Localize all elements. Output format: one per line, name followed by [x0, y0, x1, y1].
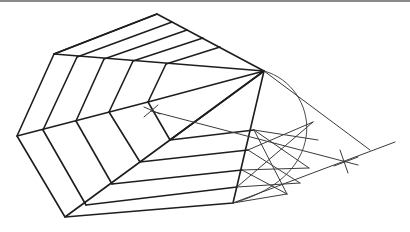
arc-chords — [233, 122, 318, 203]
left-hatching — [17, 57, 264, 136]
cross-mark-left — [144, 105, 160, 117]
top-hatching — [54, 14, 264, 71]
lower-left-hatching — [43, 71, 264, 217]
cross-mark-right — [334, 150, 358, 173]
outer-pentagon — [17, 14, 264, 217]
geometry-diagram — [0, 0, 410, 232]
bottom-hatching — [86, 130, 254, 205]
